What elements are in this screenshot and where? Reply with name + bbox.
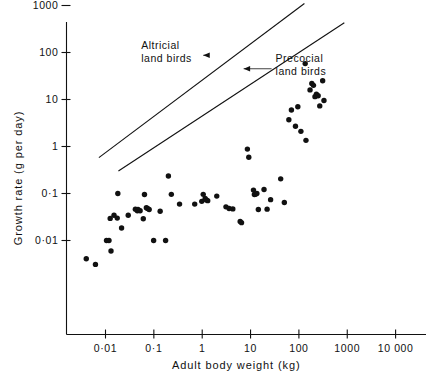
annotation-label-line2: land birds bbox=[276, 65, 327, 77]
annotation-label-line2: land birds bbox=[141, 52, 192, 64]
annotation-label-line1: Altricial bbox=[141, 39, 179, 51]
data-point bbox=[256, 207, 261, 212]
data-point bbox=[115, 191, 120, 196]
axis-ticks bbox=[62, 6, 396, 339]
data-point bbox=[192, 201, 197, 206]
data-point bbox=[311, 83, 316, 88]
data-point bbox=[245, 146, 250, 151]
data-point bbox=[84, 256, 89, 261]
data-point bbox=[230, 206, 235, 211]
data-point bbox=[151, 238, 156, 243]
data-point bbox=[106, 238, 111, 243]
annotation-arrowhead bbox=[244, 66, 251, 71]
y-tick-label: 10 bbox=[46, 93, 59, 105]
data-point bbox=[146, 207, 151, 212]
data-point bbox=[298, 129, 303, 134]
x-axis-title: Adult body weight (kg) bbox=[172, 359, 301, 371]
annotation-arrowhead bbox=[203, 53, 210, 58]
data-point bbox=[93, 262, 98, 267]
y-tick-label: 100 bbox=[39, 46, 58, 58]
data-point bbox=[169, 192, 174, 197]
scatter-plot-svg: 0·010·111010010000·010·1110100100010 000… bbox=[0, 0, 442, 377]
data-point bbox=[317, 103, 322, 108]
data-point bbox=[315, 93, 320, 98]
y-tick-label: 1000 bbox=[33, 0, 59, 11]
data-point bbox=[293, 124, 298, 129]
data-points bbox=[84, 61, 327, 267]
axis-tick-labels: 0·010·111010010000·010·1110100100010 000 bbox=[33, 0, 414, 354]
data-point bbox=[303, 138, 308, 143]
data-point bbox=[261, 187, 266, 192]
trend-lines bbox=[99, 4, 344, 172]
x-tick-label: 0·01 bbox=[94, 342, 117, 354]
y-tick-label: 0·01 bbox=[35, 234, 58, 246]
data-point bbox=[286, 117, 291, 122]
trend-line bbox=[99, 4, 305, 158]
data-point bbox=[307, 87, 312, 92]
data-point bbox=[157, 209, 162, 214]
data-point bbox=[268, 197, 273, 202]
data-point bbox=[142, 192, 147, 197]
data-point bbox=[321, 98, 326, 103]
annotation-label-line1: Precocial bbox=[276, 52, 324, 64]
data-point bbox=[254, 191, 259, 196]
data-point bbox=[278, 176, 283, 181]
x-tick-label: 10 bbox=[244, 342, 257, 354]
data-point bbox=[264, 206, 269, 211]
x-tick-label: 0·1 bbox=[145, 342, 162, 354]
data-point bbox=[177, 201, 182, 206]
x-tick-label: 10 000 bbox=[378, 342, 414, 354]
data-point bbox=[163, 238, 168, 243]
data-point bbox=[214, 193, 219, 198]
data-point bbox=[166, 173, 171, 178]
data-point bbox=[320, 78, 325, 83]
data-point bbox=[141, 216, 146, 221]
x-tick-label: 1 bbox=[199, 342, 205, 354]
y-axis-title: Growth rate (g per day) bbox=[12, 111, 24, 245]
x-tick-label: 100 bbox=[289, 342, 308, 354]
data-point bbox=[246, 155, 251, 160]
data-point bbox=[289, 107, 294, 112]
data-point bbox=[239, 220, 244, 225]
growth-rate-vs-body-weight-chart: 0·010·111010010000·010·1110100100010 000… bbox=[0, 0, 442, 377]
data-point bbox=[126, 213, 131, 218]
data-point bbox=[295, 104, 300, 109]
data-point bbox=[137, 208, 142, 213]
data-point bbox=[282, 200, 287, 205]
y-tick-label: 1 bbox=[52, 140, 58, 152]
y-tick-label: 0·1 bbox=[42, 187, 59, 199]
data-point bbox=[115, 215, 120, 220]
data-point bbox=[108, 248, 113, 253]
x-tick-label: 1000 bbox=[334, 342, 360, 354]
annotations: Altricialland birdsPrecocialland birds bbox=[141, 39, 326, 77]
data-point bbox=[119, 225, 124, 230]
data-point bbox=[205, 198, 210, 203]
